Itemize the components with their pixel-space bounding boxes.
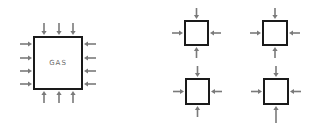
small-container-box xyxy=(263,21,287,45)
arrow-up-icon xyxy=(41,91,46,103)
large-gas-box-group: GAS xyxy=(20,23,96,103)
small-box-top-left xyxy=(172,8,221,58)
small-container-box xyxy=(264,79,288,104)
arrow-right-icon xyxy=(172,30,183,35)
small-container-box xyxy=(185,21,208,45)
arrow-right-icon xyxy=(20,81,32,86)
arrow-up-icon xyxy=(273,106,278,123)
arrow-right-icon xyxy=(20,55,32,60)
arrow-up-icon xyxy=(195,106,200,117)
arrow-left-icon xyxy=(84,41,96,46)
arrow-right-icon xyxy=(250,30,261,35)
arrow-right-icon xyxy=(173,89,184,94)
arrow-down-icon xyxy=(273,66,278,77)
arrow-left-icon xyxy=(84,68,96,73)
arrow-down-icon xyxy=(41,23,46,35)
arrow-left-icon xyxy=(84,55,96,60)
arrow-up-icon xyxy=(272,47,277,58)
small-box-top-right xyxy=(250,8,300,58)
arrow-right-icon xyxy=(251,89,262,94)
arrow-up-icon xyxy=(194,47,199,58)
arrow-down-icon xyxy=(195,66,200,77)
arrow-down-icon xyxy=(194,8,199,19)
arrow-up-icon xyxy=(70,91,75,103)
small-boxes-group xyxy=(172,8,301,123)
arrow-down-icon xyxy=(56,23,61,35)
small-box-bottom-right xyxy=(251,66,301,123)
gas-pressure-diagram: GAS xyxy=(0,0,318,129)
arrow-down-icon xyxy=(70,23,75,35)
arrow-left-icon xyxy=(210,30,221,35)
arrow-left-icon xyxy=(211,89,222,94)
gas-label: GAS xyxy=(49,59,67,67)
small-container-box xyxy=(186,79,209,104)
arrow-left-icon xyxy=(290,89,301,94)
arrow-down-icon xyxy=(272,8,277,19)
arrow-right-icon xyxy=(20,41,32,46)
arrow-left-icon xyxy=(84,81,96,86)
arrow-up-icon xyxy=(56,91,61,103)
arrow-left-icon xyxy=(289,30,300,35)
arrow-right-icon xyxy=(20,68,32,73)
small-box-bottom-left xyxy=(173,66,222,117)
